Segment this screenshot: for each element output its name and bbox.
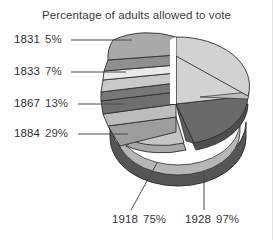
slice-label-1884: 188429% — [14, 127, 68, 139]
slice-label-1928-year: 1928 — [185, 213, 211, 225]
slice-1831 — [104, 33, 176, 71]
slice-label-1884-percent: 29% — [45, 127, 68, 139]
explode-gap — [170, 37, 176, 104]
slice-label-1831-percent: 5% — [45, 33, 62, 45]
slice-label-1833-percent: 7% — [45, 65, 62, 77]
pie-chart-figure: Percentage of adults allowed to vote — [0, 0, 273, 240]
slice-label-1833-year: 1833 — [14, 65, 40, 77]
slice-label-1918: 191875% — [112, 213, 166, 225]
slice-label-1884-year: 1884 — [14, 127, 40, 139]
slice-label-1867-year: 1867 — [14, 97, 40, 109]
slice-label-1867-percent: 13% — [45, 97, 68, 109]
slice-1831-top — [108, 33, 176, 60]
page-edge-line — [272, 0, 273, 240]
slice-label-1928-percent: 97% — [216, 213, 239, 225]
slice-label-1918-year: 1918 — [112, 213, 138, 225]
slice-label-1833: 18337% — [14, 65, 62, 77]
slice-label-1831: 18315% — [14, 33, 62, 45]
slice-label-1867: 186713% — [14, 97, 68, 109]
slice-label-1831-year: 1831 — [14, 33, 40, 45]
slice-label-1918-percent: 75% — [143, 213, 166, 225]
slice-label-1928: 192897% — [185, 213, 239, 225]
